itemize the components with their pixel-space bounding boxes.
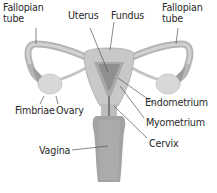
label-line-2: tube xyxy=(3,13,44,24)
label-fimbriae: Fimbriae xyxy=(15,105,55,116)
label-ovary: Ovary xyxy=(56,105,84,116)
right-ovary xyxy=(156,74,180,94)
uterus-diagram: Fallopian tube Uterus Fundus Fallopian t… xyxy=(0,0,217,193)
label-line-1: Fallopian xyxy=(3,2,44,13)
label-line-2: tube xyxy=(162,13,203,24)
label-fallopian-tube-right: Fallopian tube xyxy=(162,2,203,24)
label-fundus: Fundus xyxy=(111,10,144,21)
label-vagina: Vagina xyxy=(39,145,70,156)
label-uterus: Uterus xyxy=(68,10,99,21)
label-line-1: Fallopian xyxy=(162,2,203,13)
left-ovary xyxy=(38,74,62,94)
label-endometrium: Endometrium xyxy=(145,97,208,108)
label-cervix: Cervix xyxy=(149,138,178,149)
label-fallopian-tube-left: Fallopian tube xyxy=(3,2,44,24)
label-myometrium: Myometrium xyxy=(146,117,205,128)
